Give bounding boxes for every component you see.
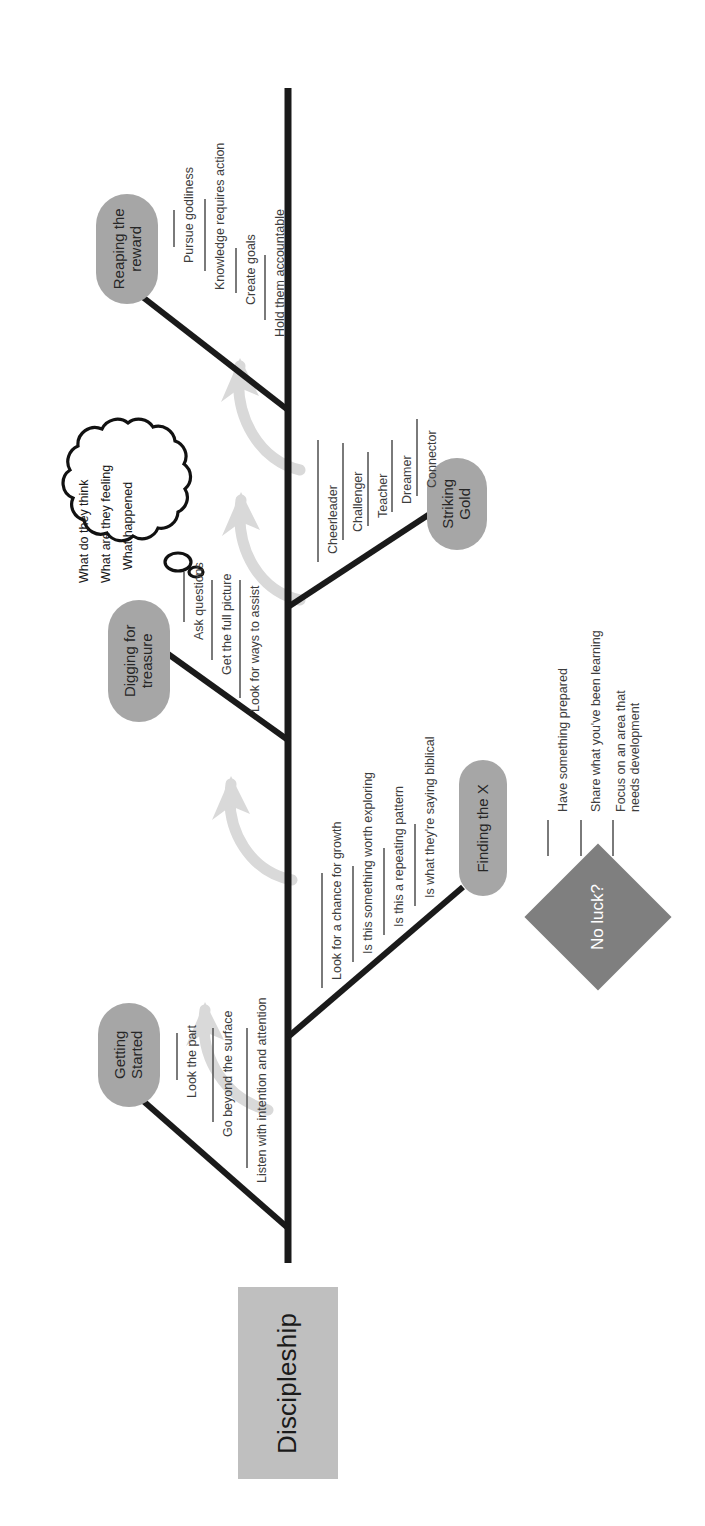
sub-item-label: Look for a chance for growth <box>330 822 344 980</box>
sub-item-label: Get the full picture <box>220 574 234 675</box>
thought-cloud-line: What happened <box>121 482 135 570</box>
category-pill-getting-started[interactable]: GettingStarted <box>98 1003 160 1107</box>
thought-cloud-line: What do they think <box>77 479 91 583</box>
decision-item-label: Focus on an area that needs development <box>614 682 643 812</box>
sub-item-label: Listen with intention and attention <box>255 997 269 1183</box>
head-box-label: Discipleship <box>273 1312 304 1453</box>
sub-item-label: Look for ways to assist <box>248 586 262 712</box>
decision-diamond-label: No luck? <box>588 884 608 950</box>
sub-item-label: Dreamer <box>400 455 414 504</box>
category-pill-label: StrikingGold <box>440 479 474 529</box>
head-box-discipleship[interactable]: Discipleship <box>238 1287 338 1479</box>
thought-cloud-bubble-1 <box>165 553 191 571</box>
category-pill-digging-for-treasure[interactable]: Digging fortreasure <box>108 600 170 722</box>
category-pill-label: Digging fortreasure <box>122 625 156 698</box>
category-pill-reaping-the-reward[interactable]: Reaping thereward <box>96 194 158 304</box>
sub-item-label: Knowledge requires action <box>213 143 227 290</box>
sub-item-label: Is this something worth exploring <box>361 772 375 954</box>
sub-item-label: Challenger <box>351 472 365 532</box>
thought-cloud-line: What are they feeling <box>99 465 113 583</box>
category-pill-finding-the-x[interactable]: Finding the X <box>459 760 507 896</box>
bone-finding-the-x <box>288 887 463 1037</box>
category-pill-label: Reaping thereward <box>110 209 144 290</box>
sub-item-label: Pursue godliness <box>182 167 196 263</box>
sub-item-label: Cheerleader <box>326 485 340 554</box>
sub-item-label: Connector <box>425 430 439 488</box>
sub-item-label: Ask questions <box>192 562 206 640</box>
sub-item-label: Create goals <box>244 234 258 305</box>
sub-item-label: Look the part <box>185 1025 199 1098</box>
sub-item-label: Hold them accountable <box>273 209 287 337</box>
sub-item-label: Teacher <box>376 474 390 518</box>
sub-item-label: Is this a repeating pattern <box>392 786 406 927</box>
decision-item-label: Share what you've been learning <box>589 630 603 812</box>
fishbone-diagram-canvas: Discipleship Reaping thereward Digging f… <box>0 0 705 1526</box>
decision-item-label: Have something prepared <box>556 668 570 812</box>
sub-item-label: Is what they're saying biblical <box>423 737 437 899</box>
category-pill-label: Finding the X <box>475 784 492 872</box>
category-pill-label: GettingStarted <box>112 1031 146 1079</box>
sub-item-label: Go beyond the surface <box>221 1011 235 1137</box>
